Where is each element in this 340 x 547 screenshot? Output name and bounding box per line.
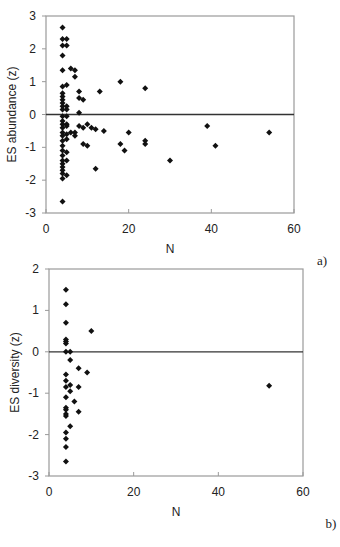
data-point: [64, 43, 70, 49]
data-point: [60, 67, 66, 73]
x-axis-label: N: [166, 242, 175, 256]
x-tick-label: 40: [205, 222, 219, 236]
panel-label: a): [317, 253, 327, 268]
data-point: [93, 166, 99, 172]
data-point: [117, 141, 123, 147]
chart-b-es-diversity: -3-2-10120204060NES diversity (z)b): [8, 262, 336, 531]
y-tick-label: -2: [25, 173, 36, 187]
data-point: [64, 157, 70, 163]
data-point: [72, 130, 78, 136]
chart-a-es-abundance: -3-2-101230204060NES abundance (z)a): [5, 9, 327, 268]
y-tick-label: 0: [29, 108, 36, 122]
x-tick-label: 0: [43, 222, 50, 236]
y-axis-label: ES abundance (z): [5, 66, 19, 162]
data-point: [84, 121, 90, 127]
data-point: [76, 409, 82, 415]
data-point: [212, 143, 218, 149]
data-point: [122, 148, 128, 154]
data-point: [67, 423, 73, 429]
data-point: [117, 79, 123, 85]
y-tick-label: -1: [25, 140, 36, 154]
data-point: [76, 89, 82, 95]
data-point: [63, 444, 69, 450]
data-point: [76, 384, 82, 390]
data-point: [63, 372, 69, 378]
data-point: [76, 365, 82, 371]
data-point: [72, 74, 78, 80]
y-tick-label: 2: [29, 42, 36, 56]
y-tick-label: -2: [28, 428, 39, 442]
y-tick-label: -3: [28, 469, 39, 483]
data-point: [63, 394, 69, 400]
y-tick-label: 1: [32, 303, 39, 317]
x-tick-label: 20: [122, 222, 136, 236]
data-point: [67, 388, 73, 394]
data-point: [142, 141, 148, 147]
x-tick-label: 60: [296, 485, 310, 499]
panel-label: b): [326, 516, 337, 531]
x-tick-label: 20: [127, 485, 141, 499]
x-axis-label: N: [172, 505, 181, 519]
y-tick-label: 0: [32, 345, 39, 359]
y-tick-label: 2: [32, 262, 39, 276]
data-point: [63, 378, 69, 384]
data-point: [266, 130, 272, 136]
data-point: [204, 123, 210, 129]
data-point: [63, 301, 69, 307]
x-tick-label: 60: [287, 222, 301, 236]
data-point: [60, 24, 66, 30]
data-point: [63, 459, 69, 465]
data-point: [63, 436, 69, 442]
data-point: [126, 130, 132, 136]
y-tick-label: -1: [28, 386, 39, 400]
data-point: [71, 398, 77, 404]
data-point: [67, 349, 73, 355]
data-point: [88, 328, 94, 334]
data-point: [60, 52, 66, 58]
data-point: [142, 85, 148, 91]
data-point: [167, 157, 173, 163]
data-point: [266, 383, 272, 389]
figure: -3-2-101230204060NES abundance (z)a) -3-…: [0, 0, 340, 547]
data-point: [101, 128, 107, 134]
data-point: [60, 199, 66, 205]
y-tick-label: -3: [25, 206, 36, 220]
data-point: [63, 430, 69, 436]
data-point: [64, 36, 70, 42]
x-tick-label: 40: [212, 485, 226, 499]
data-point: [64, 107, 70, 113]
data-point: [84, 370, 90, 376]
data-point: [63, 320, 69, 326]
y-tick-label: 1: [29, 75, 36, 89]
data-point: [97, 89, 103, 95]
data-point: [60, 176, 66, 182]
y-tick-label: 3: [29, 9, 36, 23]
x-tick-label: 0: [46, 485, 53, 499]
y-axis-label: ES diversity (z): [8, 332, 22, 413]
data-point: [63, 287, 69, 293]
data-point: [67, 357, 73, 363]
